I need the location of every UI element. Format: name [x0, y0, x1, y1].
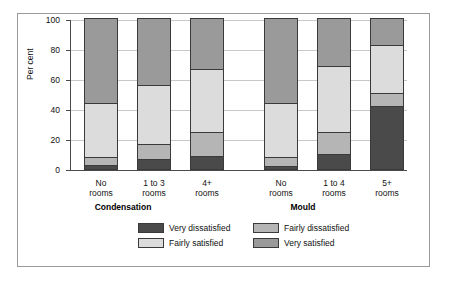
bar-1-segment-very-satisfied [138, 19, 170, 85]
bar-3-segment-very-satisfied [265, 19, 297, 103]
bar-1[interactable] [137, 18, 171, 170]
x-label-5-line1: 5+ [356, 178, 418, 188]
bar-4-segment-fairly-satisfied [318, 66, 350, 132]
legend-label-fairly-dissatisfied: Fairly dissatisfied [284, 224, 349, 233]
x-axis-line [70, 170, 407, 171]
bar-4[interactable] [317, 18, 351, 170]
legend-item-very-satisfied: Very satisfied [253, 238, 368, 248]
x-label-2-line2: rooms [176, 188, 238, 198]
bar-5[interactable] [370, 18, 404, 170]
y-axis-title: Per cent [25, 48, 35, 80]
bar-0-segment-fairly-satisfied [85, 103, 117, 157]
y-axis-line [70, 20, 71, 171]
x-label-5: 5+ rooms [356, 178, 418, 198]
y-tick-label-80: 80 [38, 46, 60, 55]
bar-2-segment-very-satisfied [191, 19, 223, 69]
legend-label-very-dissatisfied: Very dissatisfied [169, 224, 230, 233]
plot-area: 100 80 60 40 20 0 No rooms 1 to 3 rooms … [70, 20, 407, 170]
bar-2-segment-very-dissatisfied [191, 156, 223, 170]
bar-5-segment-fairly-dissatisfied [371, 93, 403, 107]
gridline-80 [71, 50, 407, 51]
bar-5-segment-fairly-satisfied [371, 45, 403, 93]
bar-0-segment-fairly-dissatisfied [85, 157, 117, 165]
legend-swatch-very-dissatisfied [138, 223, 164, 233]
bar-3-segment-fairly-satisfied [265, 103, 297, 157]
group-label-condensation: Condensation [63, 202, 183, 212]
bar-4-segment-fairly-dissatisfied [318, 132, 350, 155]
bar-1-segment-fairly-satisfied [138, 85, 170, 144]
bar-2-segment-fairly-satisfied [191, 69, 223, 132]
y-tick-label-0: 0 [38, 166, 60, 175]
bar-4-segment-very-dissatisfied [318, 154, 350, 169]
bar-3[interactable] [264, 18, 298, 170]
chart-legend: Very dissatisfied Fairly dissatisfied Fa… [138, 223, 368, 248]
legend-label-very-satisfied: Very satisfied [284, 239, 335, 248]
bar-0-segment-very-satisfied [85, 19, 117, 103]
legend-swatch-fairly-dissatisfied [253, 223, 279, 233]
legend-swatch-fairly-satisfied [138, 238, 164, 248]
legend-item-fairly-dissatisfied: Fairly dissatisfied [253, 223, 368, 233]
gridline-100 [71, 20, 407, 21]
y-tick-label-20: 20 [38, 136, 60, 145]
bar-1-segment-fairly-dissatisfied [138, 144, 170, 159]
legend-item-fairly-satisfied: Fairly satisfied [138, 238, 253, 248]
bar-0[interactable] [84, 18, 118, 170]
bar-5-segment-very-satisfied [371, 19, 403, 45]
gridline-60 [71, 80, 407, 81]
legend-item-very-dissatisfied: Very dissatisfied [138, 223, 253, 233]
bar-0-segment-very-dissatisfied [85, 165, 117, 170]
legend-label-fairly-satisfied: Fairly satisfied [169, 239, 223, 248]
bar-4-segment-very-satisfied [318, 19, 350, 66]
gridline-40 [71, 110, 407, 111]
y-tick-label-100: 100 [38, 16, 60, 25]
x-label-5-line2: rooms [356, 188, 418, 198]
x-label-2-line1: 4+ [176, 178, 238, 188]
bar-1-segment-very-dissatisfied [138, 159, 170, 170]
chart-figure: Per cent 100 80 60 40 20 0 No rooms 1 to… [17, 13, 430, 267]
x-label-2: 4+ rooms [176, 178, 238, 198]
bar-3-segment-very-dissatisfied [265, 166, 297, 169]
y-tick-label-40: 40 [38, 106, 60, 115]
bar-2-segment-fairly-dissatisfied [191, 132, 223, 156]
bar-5-segment-very-dissatisfied [371, 106, 403, 169]
bar-2[interactable] [190, 18, 224, 170]
y-tick-label-60: 60 [38, 76, 60, 85]
bar-3-segment-fairly-dissatisfied [265, 157, 297, 166]
group-label-mould: Mould [243, 202, 363, 212]
legend-swatch-very-satisfied [253, 238, 279, 248]
gridline-20 [71, 140, 407, 141]
